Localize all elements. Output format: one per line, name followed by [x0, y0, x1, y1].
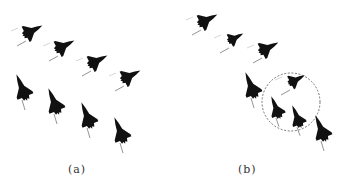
trail-line: [247, 45, 254, 48]
aircraft-icon: [43, 33, 78, 61]
trail-line: [54, 114, 57, 124]
aircraft-icon: [76, 48, 111, 76]
panel-a: [8, 18, 144, 153]
trail-line: [87, 128, 90, 138]
trail-line: [22, 100, 25, 110]
trail-line: [109, 73, 116, 76]
trail-line: [17, 41, 26, 46]
aircraft-icon: [265, 93, 288, 126]
aircraft-icon: [8, 71, 35, 110]
trail-line: [253, 58, 262, 63]
trail-line: [321, 141, 324, 151]
trail-line: [76, 58, 83, 61]
aircraft-icon: [73, 99, 100, 138]
aircraft-icon: [11, 18, 46, 46]
aircraft-icon: [109, 63, 144, 91]
trail-line: [115, 86, 124, 91]
panel-label-a: (a): [68, 163, 86, 176]
trail-line: [251, 98, 254, 108]
trail-line: [220, 48, 229, 53]
aircraft-icon: [186, 7, 221, 35]
aircraft-icon: [214, 28, 246, 53]
trail-line: [82, 71, 91, 76]
trail-line: [276, 118, 279, 127]
trail-line: [214, 35, 221, 38]
trail-line: [297, 127, 300, 136]
aircraft-icon: [247, 35, 282, 63]
aircraft-icon: [237, 69, 264, 108]
panel-b: [186, 7, 334, 151]
aircraft-icon: [40, 85, 67, 124]
aircraft-icon: [307, 112, 334, 151]
trail-line: [281, 90, 290, 95]
trail-line: [120, 143, 123, 153]
trail-line: [186, 17, 193, 20]
trail-line: [43, 43, 50, 46]
formation-figure: [0, 0, 346, 190]
trail-line: [11, 28, 18, 31]
trail-line: [192, 30, 201, 35]
trail-line: [49, 56, 58, 61]
panel-label-b: (b): [238, 163, 257, 176]
aircraft-icon: [106, 114, 133, 153]
